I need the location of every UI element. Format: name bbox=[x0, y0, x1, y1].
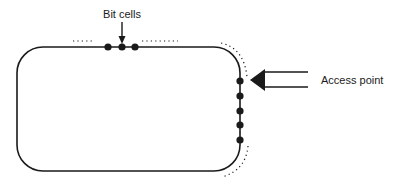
bit-cell bbox=[236, 121, 243, 128]
bit-cell bbox=[236, 136, 243, 143]
access-point-label: Access point bbox=[321, 74, 383, 86]
top-bit-cells bbox=[104, 43, 138, 50]
bit-cell bbox=[236, 107, 243, 114]
bit-cell bbox=[236, 92, 243, 99]
memory-loop-diagram: Bit cells Access point bbox=[0, 0, 401, 187]
bit-cell bbox=[104, 43, 111, 50]
bit-cells-arrow-icon bbox=[119, 22, 126, 44]
bit-cell bbox=[236, 77, 243, 84]
bit-cell bbox=[131, 43, 138, 50]
bit-cells-label: Bit cells bbox=[103, 8, 141, 20]
access-point-arrow-icon bbox=[250, 69, 308, 91]
bit-cell bbox=[118, 43, 125, 50]
upper-right-dotted-arc bbox=[221, 43, 247, 77]
delay-line-loop bbox=[17, 47, 240, 171]
